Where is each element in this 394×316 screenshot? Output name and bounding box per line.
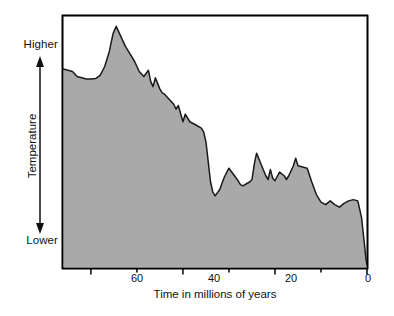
y-axis-top-label: Higher xyxy=(2,38,58,50)
y-axis-title: Temperature xyxy=(26,86,38,206)
y-axis-bottom-label: Lower xyxy=(2,234,58,246)
x-tick-label-60: 60 xyxy=(122,272,152,284)
temperature-over-time-chart: Higher Lower Temperature Time in million… xyxy=(0,0,394,316)
x-tick-label-0: 0 xyxy=(353,272,383,284)
plot-svg xyxy=(0,0,394,316)
x-tick-label-20: 20 xyxy=(276,272,306,284)
x-tick-label-40: 40 xyxy=(199,272,229,284)
x-axis-title: Time in millions of years xyxy=(62,288,368,300)
